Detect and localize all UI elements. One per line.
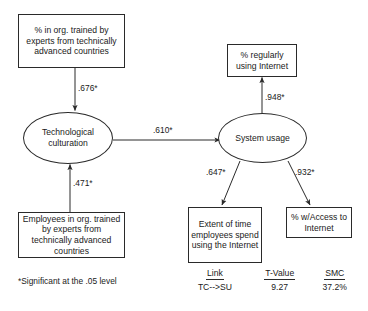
node-bottom-left-indicator-label: Employees in org. trained by experts fro… <box>21 214 122 256</box>
node-extent-of-time-label: Extent of time employees spend using the… <box>191 219 259 251</box>
stats-header-smc: SMC <box>311 268 360 281</box>
node-bottom-left-indicator: Employees in org. trained by experts fro… <box>18 212 125 258</box>
node-extent-of-time: Extent of time employees spend using the… <box>188 207 262 263</box>
stats-table-header-row: Link T-Value SMC <box>181 268 359 281</box>
stats-cell-t-value: 9.27 <box>249 281 311 292</box>
stats-table-row: TC-->SU 9.27 37.2% <box>181 281 359 292</box>
stats-cell-link: TC-->SU <box>181 281 249 292</box>
node-regularly-using-internet-label: % regularly using Internet <box>230 50 294 71</box>
path-diagram: % in org. trained by experts from techni… <box>0 0 368 311</box>
stats-cell-smc: 37.2% <box>311 281 360 292</box>
node-access-to-internet: % w/Access to Internet <box>286 207 352 238</box>
node-access-to-internet-label: % w/Access to Internet <box>289 212 349 233</box>
node-regularly-using-internet: % regularly using Internet <box>227 44 297 77</box>
node-top-left-indicator-label: % in org. trained by experts from techni… <box>21 25 122 57</box>
edge-label-system-usage-to-regularly-using-internet: .948* <box>265 92 285 102</box>
node-system-usage: System usage <box>218 113 307 163</box>
edge-label-technological-culturation-to-system-usage: .610* <box>153 125 173 135</box>
significance-footnote: *Significant at the .05 level <box>18 276 117 286</box>
edge-label-bottom-left-to-technological-culturation: .471* <box>73 178 93 188</box>
node-system-usage-label: System usage <box>219 133 306 144</box>
node-technological-culturation: Technological culturation <box>23 112 113 164</box>
edge-label-system-usage-to-extent-of-time: .647* <box>206 167 226 177</box>
node-technological-culturation-label: Technological culturation <box>24 127 112 148</box>
node-top-left-indicator: % in org. trained by experts from techni… <box>18 14 125 68</box>
edge-label-system-usage-to-access-to-internet: .932* <box>295 167 315 177</box>
stats-table: Link T-Value SMC TC-->SU 9.27 37.2% <box>181 268 359 292</box>
stats-header-t-value: T-Value <box>249 268 311 281</box>
stats-header-link: Link <box>181 268 249 281</box>
edge-label-top-left-to-technological-culturation: .676* <box>78 83 98 93</box>
